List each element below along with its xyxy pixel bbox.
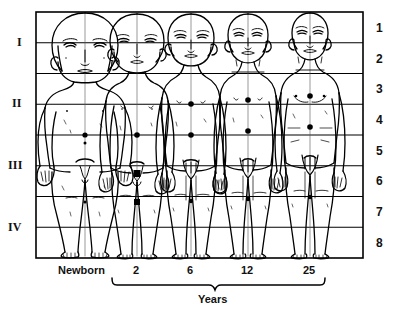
- age-label-2: 2: [133, 264, 139, 276]
- chest-marker-12-years: [245, 97, 251, 103]
- age-label-6: 6: [187, 264, 193, 276]
- midpoint-marker-6-years: [188, 132, 194, 138]
- right-axis-label-1: 1: [376, 21, 383, 35]
- right-axis-label-4: 4: [376, 113, 383, 127]
- age-label-newborn: Newborn: [58, 264, 105, 276]
- right-axis-label-8: 8: [376, 236, 383, 250]
- left-axis-label-I: I: [17, 35, 22, 50]
- right-axis-label-2: 2: [376, 52, 383, 66]
- chest-marker-25-years: [307, 93, 313, 99]
- right-axis-label-5: 5: [376, 144, 383, 158]
- chest-marker-6-years: [188, 101, 194, 107]
- right-axis-label-3: 3: [376, 82, 383, 96]
- midpoint-marker-newborn: [82, 132, 87, 137]
- years-axis-label: Years: [198, 293, 227, 305]
- right-axis-label-6: 6: [376, 174, 383, 188]
- age-label-12: 12: [241, 264, 253, 276]
- left-axis-label-II: II: [12, 96, 22, 111]
- midpoint-marker-12-years: [245, 128, 251, 134]
- age-label-25: 25: [303, 264, 315, 276]
- midpoint-marker-25-years: [307, 124, 313, 130]
- midpoint-marker-2-years: [134, 132, 140, 138]
- left-axis-label-IV: IV: [8, 220, 22, 235]
- left-axis-label-III: III: [8, 158, 23, 173]
- right-axis-label-7: 7: [376, 205, 383, 219]
